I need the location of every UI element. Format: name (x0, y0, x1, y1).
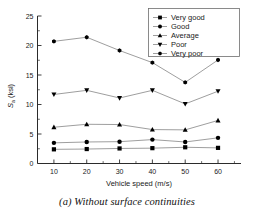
data-point-square (117, 146, 121, 150)
y-tick-label: 25 (26, 13, 34, 20)
circle-marker (183, 140, 187, 144)
square-marker (85, 147, 89, 151)
hexagon-marker (216, 58, 220, 62)
data-point-hexagon (216, 58, 220, 62)
circle-marker (216, 136, 220, 140)
figure-container: 0510152025 102030405060 Sa (ksi) Vehicle… (0, 0, 254, 216)
circle-marker (85, 140, 89, 144)
data-point-square (52, 147, 56, 151)
data-point-circle (85, 140, 89, 144)
data-point-square (85, 147, 89, 151)
circle-marker (117, 139, 121, 143)
triangle-up-marker (216, 118, 221, 123)
data-point-hexagon (183, 80, 187, 84)
data-point-circle (117, 139, 121, 143)
square-marker (150, 146, 154, 150)
data-point-triangle-down (117, 96, 122, 101)
data-point-triangle-down (51, 92, 56, 97)
data-point-triangle-down (183, 102, 188, 107)
circle-marker (150, 137, 154, 141)
data-point-circle (52, 141, 56, 145)
series-very-good (52, 145, 220, 151)
legend-label: Good (171, 22, 189, 31)
data-point-square (183, 145, 187, 149)
series-average (51, 118, 220, 132)
square-marker (117, 146, 121, 150)
series-line (54, 90, 218, 104)
data-point-square (158, 16, 162, 20)
triangle-down-marker (183, 102, 188, 107)
x-axis-label: Vehicle speed (m/s) (106, 179, 172, 188)
x-tick-label: 30 (116, 168, 124, 175)
y-axis-label: Sa (ksi) (6, 83, 16, 108)
y-tick-label: 0 (30, 160, 34, 167)
series-line (54, 138, 218, 143)
data-point-hexagon (52, 39, 56, 43)
legend-label: Very good (171, 13, 205, 22)
y-tick-label: 5 (30, 131, 34, 138)
square-marker (216, 146, 220, 150)
data-point-square (216, 146, 220, 150)
y-tick-label: 20 (26, 42, 34, 49)
x-axis-tick-labels: 102030405060 (50, 168, 222, 175)
data-point-hexagon (150, 60, 154, 64)
x-tick-label: 10 (50, 168, 58, 175)
legend-label: Average (171, 31, 199, 40)
x-tick-label: 60 (214, 168, 222, 175)
series-good (52, 136, 221, 145)
hexagon-marker (85, 35, 89, 39)
series-line (54, 147, 218, 149)
data-point-circle (216, 136, 220, 140)
series-poor (51, 88, 220, 106)
y-axis-label-unit: (ksi) (6, 83, 15, 98)
circle-marker (158, 25, 162, 29)
figure-caption: (a) Without surface continuities (0, 196, 254, 207)
square-marker (158, 16, 162, 20)
legend-label: Very poor (171, 49, 204, 58)
chart-legend[interactable]: Very goodGoodAveragePoorVery poor (149, 9, 240, 59)
data-point-hexagon (85, 35, 89, 39)
line-chart: 0510152025 102030405060 Sa (ksi) Vehicle… (0, 0, 254, 195)
x-tick-label: 20 (83, 168, 91, 175)
x-tick-label: 40 (148, 168, 156, 175)
data-point-triangle-up (216, 118, 221, 123)
hexagon-marker (118, 48, 122, 52)
square-marker (52, 147, 56, 151)
data-point-hexagon (118, 48, 122, 52)
triangle-down-marker (117, 96, 122, 101)
circle-marker (52, 141, 56, 145)
data-point-circle (150, 137, 154, 141)
data-point-circle (158, 25, 162, 29)
square-marker (183, 145, 187, 149)
legend-label: Poor (171, 40, 187, 49)
y-tick-label: 15 (26, 72, 34, 79)
x-tick-label: 50 (181, 168, 189, 175)
y-axis-tick-labels: 0510152025 (26, 13, 34, 168)
y-tick-label: 10 (26, 101, 34, 108)
hexagon-marker (150, 60, 154, 64)
data-point-square (150, 146, 154, 150)
triangle-down-marker (51, 92, 56, 97)
series-line (54, 120, 218, 129)
data-point-circle (183, 140, 187, 144)
svg-text:Sa (ksi): Sa (ksi) (6, 83, 16, 108)
hexagon-marker (52, 39, 56, 43)
hexagon-marker (183, 80, 187, 84)
